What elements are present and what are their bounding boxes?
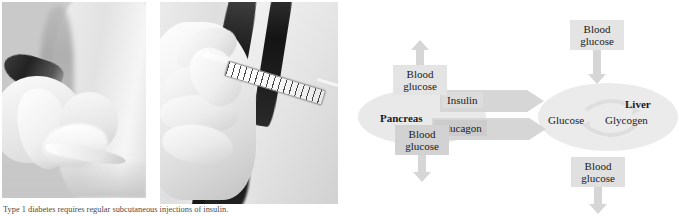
figure-caption: Type 1 diabetes requires regular subcuta…	[3, 204, 333, 215]
blood-glucose-line-2: glucose	[581, 172, 615, 185]
blood-glucose-line-1: Blood	[584, 23, 611, 36]
liver-label: Liver	[625, 98, 651, 110]
arrow-shaft	[416, 49, 424, 66]
blood-glucose-line-1: Blood	[407, 68, 434, 81]
arrow-head-down	[589, 204, 607, 214]
glucose-label: Glucose	[548, 114, 584, 126]
blood-glucose-box-liver-bottom: Blood glucose	[571, 157, 625, 187]
photo-panel: Type 1 diabetes requires regular subcuta…	[0, 0, 340, 216]
blood-glucose-box-pancreas-bottom: Blood glucose	[395, 125, 449, 155]
insulin-label: Insulin	[442, 92, 483, 108]
photo-insulin-injection-arm	[160, 2, 338, 204]
arrow-blood-glucose-from-liver	[589, 186, 607, 214]
blood-glucose-line-2: glucose	[403, 80, 437, 93]
arrow-head-right	[527, 90, 544, 112]
blood-glucose-box-pancreas-top: Blood glucose	[393, 65, 447, 95]
arrow-head-right	[529, 118, 546, 140]
arrow-blood-glucose-falling-pancreas	[413, 154, 431, 182]
arrow-shaft	[594, 186, 602, 205]
arrow-shaft	[593, 49, 601, 75]
photo-a-bottom-shading	[2, 159, 146, 198]
arrow-blood-glucose-rising-pancreas	[411, 40, 429, 66]
arrow-blood-glucose-into-liver	[588, 49, 606, 84]
pancreas-label: Pancreas	[380, 112, 423, 124]
glycogen-label: Glycogen	[605, 114, 648, 126]
blood-glucose-line-1: Blood	[585, 160, 612, 173]
blood-glucose-line-2: glucose	[405, 140, 439, 153]
blood-glucose-line-1: Blood	[409, 128, 436, 141]
glucose-regulation-diagram: Pancreas Liver Glucose Glycogen Insulin …	[340, 0, 679, 216]
arrow-head-down	[588, 74, 606, 84]
arrow-shaft	[418, 154, 426, 173]
arrow-head-down	[413, 172, 431, 182]
blood-glucose-box-liver-top: Blood glucose	[570, 20, 624, 50]
blood-glucose-line-2: glucose	[580, 35, 614, 48]
photo-pinching-skin-fold	[2, 2, 146, 198]
